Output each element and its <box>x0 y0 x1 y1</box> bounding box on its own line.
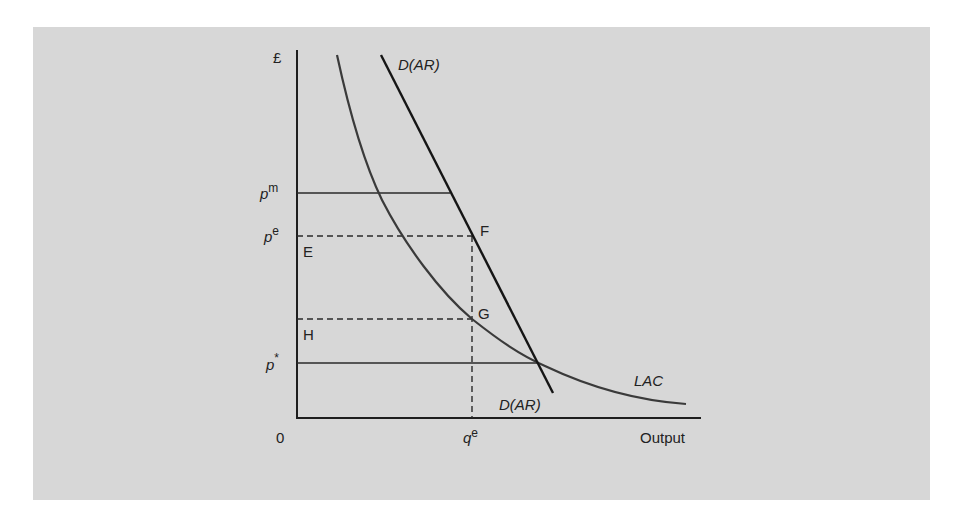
point-f-label: F <box>480 222 489 239</box>
pe-label: pe <box>263 224 279 245</box>
point-g-label: G <box>478 305 490 322</box>
qe-label: qe <box>463 426 478 446</box>
lac-curve <box>337 55 686 404</box>
point-e-label: E <box>303 243 313 260</box>
pm-label: pm <box>259 181 278 202</box>
point-h-label: H <box>303 326 314 343</box>
y-axis-label: £ <box>273 49 282 66</box>
lac-label: LAC <box>634 372 663 389</box>
x-axis-label: Output <box>640 429 686 446</box>
pstar-label: p* <box>265 351 279 373</box>
demand-label-bottom: D(AR) <box>499 396 541 413</box>
origin-label: 0 <box>276 429 284 446</box>
demand-label-top: D(AR) <box>398 56 440 73</box>
demand-line <box>381 55 553 393</box>
price-output-diagram: £ pm pe p* E F G H D(AR) D(AR) LAC 0 qe … <box>0 0 956 522</box>
